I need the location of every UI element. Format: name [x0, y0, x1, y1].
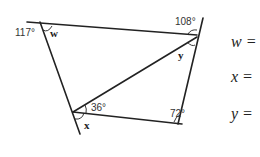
left-line: [40, 22, 80, 134]
variable-y: y: [178, 50, 184, 61]
angle-label-72: 72°: [170, 109, 185, 119]
angle-arc-x: [75, 113, 84, 119]
geometry-figure: [0, 0, 260, 157]
angle-label-108: 108°: [175, 17, 196, 27]
angle-label-36: 36°: [91, 103, 106, 113]
variable-x: x: [84, 120, 90, 131]
answer-x: x =: [231, 68, 253, 86]
answer-y: y =: [231, 105, 253, 123]
angle-arc-108: [188, 30, 197, 34]
variable-w: w: [50, 28, 58, 39]
answer-w: w =: [231, 33, 256, 51]
angle-arc-y: [187, 42, 195, 46]
angle-label-117: 117°: [15, 28, 35, 38]
angle-arc-36: [85, 105, 86, 113]
